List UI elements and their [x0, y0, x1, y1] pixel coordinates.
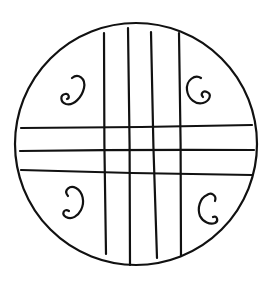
spiral-top-left-icon [61, 76, 84, 104]
horizontal-line-3 [21, 170, 252, 175]
vertical-line-2 [128, 28, 130, 265]
vertical-line-4 [179, 33, 181, 256]
spiral-bottom-left-icon [63, 187, 83, 218]
spiral-top-right-icon [187, 77, 210, 104]
vertical-line-1 [104, 33, 106, 254]
vertical-line-3 [151, 32, 157, 258]
horizontal-lines [20, 125, 254, 175]
spiral-bottom-right-icon [199, 194, 217, 224]
glyph-svg [0, 0, 274, 288]
vertical-lines [104, 28, 181, 265]
horizontal-line-2 [20, 150, 254, 151]
outer-circle [15, 23, 257, 265]
horizontal-line-1 [21, 125, 252, 128]
circular-glyph-figure [0, 0, 274, 288]
